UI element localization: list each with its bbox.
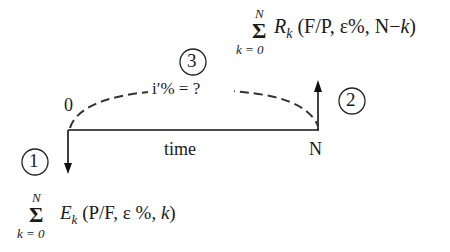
- marker-3-label: 3: [187, 50, 197, 72]
- timeline-end-label: N: [309, 139, 322, 160]
- timeline-start-label: 0: [64, 95, 73, 116]
- bottom-sum-lower: k = 0: [17, 226, 45, 242]
- bottom-term-letter: E: [60, 202, 72, 223]
- bottom-term-subscript: k: [72, 212, 78, 227]
- top-args-close: ): [409, 15, 416, 37]
- bottom-sum-term: Ek (P/F, ε %, k): [60, 202, 176, 228]
- top-sum-symbol: Σ: [252, 18, 266, 44]
- text-layer: 1 2 3 0 N time i′% = ? N Σ k = 0 Rk (F/P…: [0, 0, 450, 252]
- bottom-args-open: (P/F, ε %,: [82, 202, 161, 223]
- bottom-sum-symbol: Σ: [29, 202, 43, 228]
- timeline-axis-label: time: [164, 139, 196, 160]
- bottom-args-close: ): [169, 202, 175, 223]
- top-args-open: (F/P, ε%, N−: [297, 15, 400, 37]
- top-sum-lower: k = 0: [236, 42, 264, 58]
- receipts-formula: N Σ k = 0 Rk (F/P, ε%, N−k): [236, 2, 450, 82]
- top-term-subscript: k: [286, 26, 292, 41]
- expenses-formula: N Σ k = 0 Ek (P/F, ε %, k): [12, 188, 252, 252]
- top-sum-term: Rk (F/P, ε%, N−k): [274, 15, 416, 42]
- marker-1-label: 1: [29, 150, 39, 172]
- top-term-letter: R: [274, 15, 286, 37]
- rate-label: i′% = ?: [152, 79, 200, 99]
- marker-2-label: 2: [346, 89, 356, 111]
